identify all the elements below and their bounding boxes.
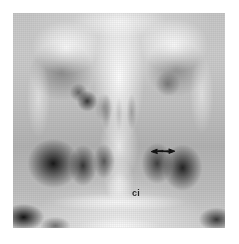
film-base-tone bbox=[13, 13, 225, 228]
radiograph-image: ci bbox=[13, 13, 225, 228]
ci-lucency bbox=[13, 13, 225, 228]
ethmoid-air-cells bbox=[13, 13, 225, 228]
orbital-rim-highlights bbox=[13, 13, 225, 228]
figure-root: ci bbox=[0, 0, 239, 244]
ci-label: ci bbox=[132, 189, 140, 198]
film-grain-overlay bbox=[13, 13, 225, 228]
arrow-icon bbox=[150, 146, 176, 158]
nasal-cavity-turbinates bbox=[13, 13, 225, 228]
midline-bone-highlight bbox=[13, 13, 225, 228]
orbit-shadows bbox=[13, 13, 225, 228]
hard-palate-highlight bbox=[13, 13, 225, 228]
maxillary-antra-shadows bbox=[13, 13, 225, 228]
skull-base-shadows bbox=[13, 13, 225, 228]
